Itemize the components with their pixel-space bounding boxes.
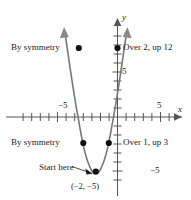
parabola-right-arrowhead bbox=[123, 27, 132, 38]
coordinate-plot bbox=[0, 0, 191, 200]
parabola-curve bbox=[60, 27, 132, 174]
y-axis-arrowhead bbox=[114, 18, 122, 26]
marked-points bbox=[76, 45, 121, 175]
point-over-1-up-3 bbox=[106, 140, 112, 146]
label-start-here: Start here bbox=[39, 163, 74, 172]
x-tick-label-pos5: 5 bbox=[157, 101, 162, 110]
y-tick-label-neg5: −5 bbox=[150, 166, 160, 175]
label-over-1-up-3: Over 1, up 3 bbox=[123, 138, 168, 147]
label-by-symmetry-bottom: By symmetry bbox=[11, 138, 60, 147]
x-axis bbox=[6, 113, 182, 121]
label-by-symmetry-top: By symmetry bbox=[11, 43, 60, 52]
point-over-2-up-12 bbox=[114, 45, 120, 51]
parabola-graph-figure: By symmetry Over 2, up 12 By symmetry Ov… bbox=[0, 0, 191, 200]
point-by-symmetry-bottom bbox=[80, 140, 86, 146]
x-axis-name: x bbox=[178, 105, 182, 114]
x-axis-arrowhead bbox=[174, 113, 182, 121]
parabola-left-arrowhead bbox=[60, 27, 69, 38]
y-tick-label-pos5: 5 bbox=[122, 67, 127, 76]
y-axis-name: y bbox=[122, 13, 126, 22]
point-vertex bbox=[93, 168, 99, 174]
label-over-2-up-12: Over 2, up 12 bbox=[123, 43, 173, 52]
point-by-symmetry-top bbox=[76, 45, 82, 51]
label-vertex-coordinates: (−2, −5) bbox=[71, 182, 99, 191]
x-tick-label-neg5: −5 bbox=[58, 101, 68, 110]
